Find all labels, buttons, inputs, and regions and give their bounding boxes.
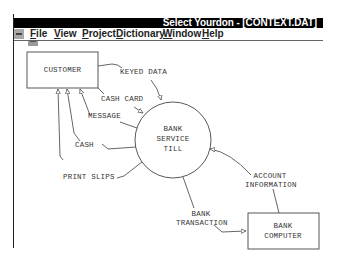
customer-label: CUSTOMER: [40, 66, 85, 75]
flow-label-keyed-data: KEYED DATA: [120, 68, 167, 77]
bank-computer-label-line2: COMPUTER: [259, 232, 307, 241]
flow-label-bank-transaction-line1: BANK: [176, 210, 226, 219]
flow-label-print-slips: PRINT SLIPS: [63, 173, 115, 182]
flow-label-message: MESSAGE: [88, 112, 121, 121]
flow-label-cash: CASH: [75, 141, 94, 150]
flow-label-account-information-line2: INFORMATION: [245, 181, 295, 190]
process-label-line2: SERVICE: [150, 135, 196, 144]
flow-label-bank-transaction-line2: TRANSACTION: [176, 219, 226, 228]
bank-computer-label-line1: BANK: [259, 222, 307, 231]
flow-label-cash-card: CASH CARD: [101, 95, 143, 104]
flow-label-account-information-line1: ACCOUNT: [245, 172, 295, 181]
process-label-line3: TILL: [150, 145, 196, 154]
process-label-line1: BANK: [150, 125, 196, 134]
bank-computer-terminator-box[interactable]: [248, 213, 319, 249]
